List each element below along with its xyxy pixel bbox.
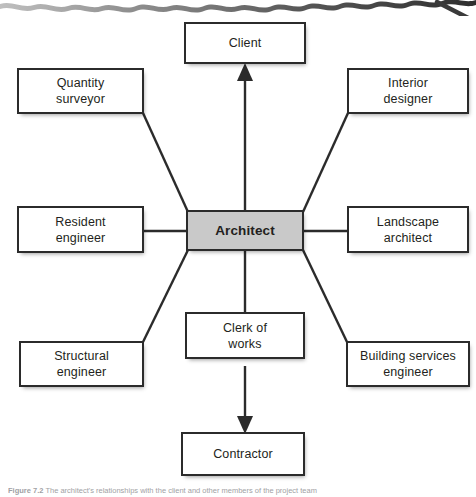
node-quantity-surveyor-label: Quantity surveyor xyxy=(52,75,109,107)
node-resident-engineer-label: Resident engineer xyxy=(51,214,109,246)
figure-page: Client Quantity surveyor Interior design… xyxy=(0,0,476,497)
figure-caption-text: The architect's relationships with the c… xyxy=(45,486,317,495)
figure-caption: Figure 7.2 The architect's relationships… xyxy=(8,486,448,495)
node-structural-engineer-label: Structural engineer xyxy=(50,348,113,380)
node-interior-designer[interactable]: Interior designer xyxy=(347,68,469,114)
connector-architect-building-services-engineer xyxy=(303,250,347,342)
connector-architect-interior-designer xyxy=(303,113,348,212)
node-resident-engineer[interactable]: Resident engineer xyxy=(17,206,144,253)
node-interior-designer-label: Interior designer xyxy=(380,75,437,107)
node-landscape-architect-label: Landscape architect xyxy=(373,214,443,246)
connector-architect-structural-engineer xyxy=(143,250,188,342)
node-client-label: Client xyxy=(225,35,266,51)
arrowhead-up-to-client xyxy=(237,63,253,81)
node-architect-label: Architect xyxy=(211,222,279,239)
figure-number: Figure 7.2 xyxy=(8,486,43,495)
node-structural-engineer[interactable]: Structural engineer xyxy=(19,341,144,387)
node-contractor[interactable]: Contractor xyxy=(181,432,305,476)
node-client[interactable]: Client xyxy=(184,22,306,64)
node-building-services-engineer[interactable]: Building services engineer xyxy=(346,341,470,387)
node-building-services-engineer-label: Building services engineer xyxy=(356,348,460,380)
node-clerk-of-works-label: Clerk of works xyxy=(219,320,271,352)
node-architect[interactable]: Architect xyxy=(186,210,304,251)
node-landscape-architect[interactable]: Landscape architect xyxy=(347,206,469,253)
node-quantity-surveyor[interactable]: Quantity surveyor xyxy=(17,68,144,114)
node-clerk-of-works[interactable]: Clerk of works xyxy=(185,312,305,359)
connector-architect-quantity-surveyor xyxy=(143,113,188,212)
node-contractor-label: Contractor xyxy=(209,446,277,462)
